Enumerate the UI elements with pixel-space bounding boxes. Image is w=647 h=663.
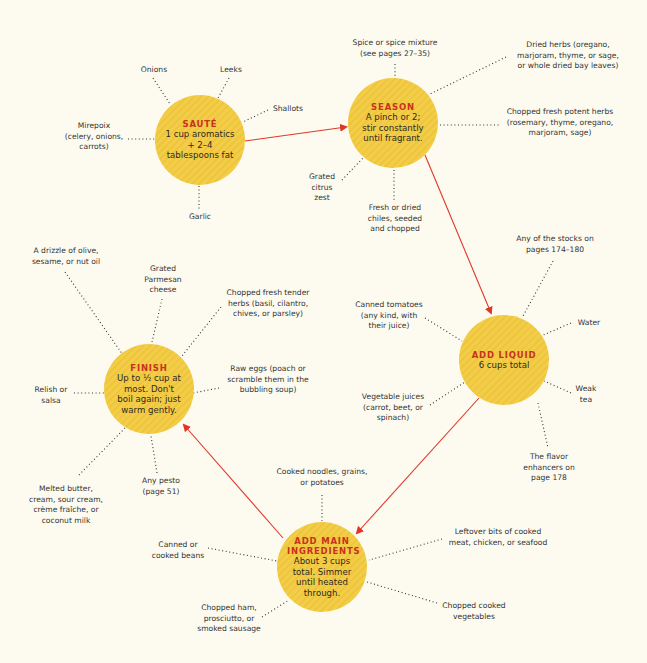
label-canned-tomatoes: Canned tomatoes (any kind, with their ju… (352, 300, 426, 332)
node-title: SEASON (371, 102, 415, 112)
label-shallots: Shallots (268, 104, 308, 115)
label-flavor-enhancers: The flavor enhancers on page 178 (517, 452, 581, 484)
label-leftover-meat: Leftover bits of cooked meat, chicken, o… (444, 527, 552, 548)
node-finish: FINISH Up to ½ cup at most. Don't boil a… (104, 344, 194, 434)
label-water: Water (572, 318, 606, 329)
label-olive-oil: A drizzle of olive, sesame, or nut oil (24, 246, 108, 267)
label-citrus-zest: Grated citrus zest (302, 172, 342, 204)
label-raw-eggs: Raw eggs (poach or scramble them in the … (220, 364, 316, 396)
label-weak-tea: Weak tea (570, 384, 602, 405)
label-ham: Chopped ham, prosciutto, or smoked sausa… (196, 603, 262, 635)
label-vegetable-juices: Vegetable juices (carrot, beet, or spina… (356, 392, 430, 424)
node-add-main-ingredients: ADD MAIN INGREDIENTS About 3 cups total.… (277, 522, 367, 612)
node-title: ADD LIQUID (472, 350, 537, 360)
label-tender-herbs: Chopped fresh tender herbs (basil, cilan… (222, 288, 314, 320)
node-season: SEASON A pinch or 2; stir constantly unt… (348, 78, 438, 168)
node-title: ADD MAIN INGREDIENTS (287, 536, 357, 556)
node-title: SAUTÉ (183, 119, 218, 129)
label-parmesan: Grated Parmesan cheese (140, 264, 186, 296)
node-body: 6 cups total (479, 360, 530, 371)
node-body: 1 cup aromatics + 2–4 tablespoons fat (161, 129, 239, 161)
label-relish: Relish or salsa (28, 385, 74, 406)
label-pesto: Any pesto (page 51) (136, 476, 186, 497)
label-cooked-vegetables: Chopped cooked vegetables (438, 601, 510, 622)
node-title: FINISH (130, 363, 167, 373)
node-add-liquid: ADD LIQUID 6 cups total (459, 315, 549, 405)
label-stocks: Any of the stocks on pages 174–180 (505, 234, 605, 255)
label-chiles: Fresh or dried chiles, seeded and choppe… (360, 203, 430, 235)
label-melted-butter: Melted butter, cream, sour cream, crème … (24, 484, 108, 526)
label-mirepoix: Mirepoix (celery, onions, carrots) (60, 121, 128, 153)
label-dried-herbs: Dried herbs (oregano, marjoram, thyme, o… (512, 40, 624, 72)
node-body: About 3 cups total. Simmer until heated … (292, 556, 352, 598)
label-garlic: Garlic (184, 212, 216, 223)
node-saute: SAUTÉ 1 cup aromatics + 2–4 tablespoons … (155, 95, 245, 185)
label-potent-herbs: Chopped fresh potent herbs (rosemary, th… (502, 107, 618, 139)
node-body: Up to ½ cup at most. Don't boil again; j… (115, 373, 183, 415)
label-leeks: Leeks (214, 65, 248, 76)
node-body: A pinch or 2; stir constantly until frag… (361, 112, 425, 144)
label-noodles: Cooked noodles, grains, or potatoes (270, 467, 374, 488)
label-onions: Onions (134, 65, 174, 76)
label-spice: Spice or spice mixture (see pages 27–35) (345, 38, 445, 59)
label-beans: Canned or cooked beans (150, 540, 206, 561)
